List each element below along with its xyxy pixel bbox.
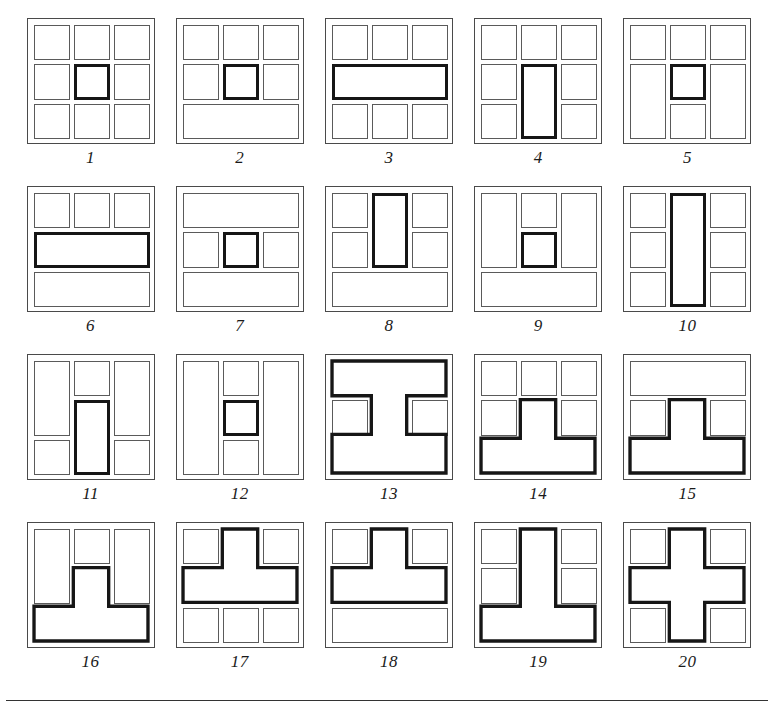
thin-region bbox=[481, 193, 517, 268]
figure-caption: 7 bbox=[235, 317, 244, 334]
thin-region bbox=[412, 193, 448, 228]
figure-inner-area bbox=[332, 529, 446, 641]
figure-17[interactable] bbox=[176, 522, 304, 648]
bold-region bbox=[223, 232, 259, 267]
bold-region-plus bbox=[630, 529, 744, 641]
horizontal-rule bbox=[6, 700, 768, 701]
figure-1[interactable] bbox=[27, 18, 155, 144]
figure-cell: 5 bbox=[615, 18, 760, 186]
thin-region bbox=[74, 25, 110, 60]
thin-region bbox=[114, 104, 150, 139]
figure-cell: 15 bbox=[615, 354, 760, 522]
thin-region bbox=[710, 25, 746, 60]
thin-region bbox=[74, 104, 110, 139]
figure-cell: 9 bbox=[466, 186, 611, 354]
thin-region bbox=[332, 25, 368, 60]
figure-12[interactable] bbox=[176, 354, 304, 480]
thin-region bbox=[223, 25, 259, 60]
thin-region bbox=[481, 25, 517, 60]
figure-caption: 8 bbox=[384, 317, 393, 334]
figure-13[interactable] bbox=[325, 354, 453, 480]
figure-19[interactable] bbox=[474, 522, 602, 648]
figure-16[interactable] bbox=[27, 522, 155, 648]
thin-region bbox=[332, 104, 368, 139]
bold-region-T_down bbox=[34, 529, 148, 641]
figure-cell: 1 bbox=[18, 18, 163, 186]
figure-inner-area bbox=[332, 193, 446, 305]
figure-9[interactable] bbox=[474, 186, 602, 312]
figure-cell: 3 bbox=[316, 18, 461, 186]
figure-caption: 15 bbox=[678, 485, 696, 502]
figure-4[interactable] bbox=[474, 18, 602, 144]
figure-caption: 3 bbox=[384, 149, 393, 166]
figure-cell: 11 bbox=[18, 354, 163, 522]
thin-region bbox=[114, 193, 150, 228]
thin-region bbox=[561, 25, 597, 60]
figure-caption: 20 bbox=[678, 653, 696, 670]
figure-cell: 19 bbox=[466, 522, 611, 690]
figure-caption: 6 bbox=[86, 317, 95, 334]
bold-region bbox=[74, 400, 110, 475]
thin-region bbox=[183, 272, 299, 307]
figure-cell: 8 bbox=[316, 186, 461, 354]
thin-region bbox=[481, 64, 517, 99]
thin-region bbox=[34, 104, 70, 139]
thin-region bbox=[74, 361, 110, 396]
figure-inner-area bbox=[481, 193, 595, 305]
thin-region bbox=[710, 193, 746, 228]
figure-6[interactable] bbox=[27, 186, 155, 312]
figure-10[interactable] bbox=[623, 186, 751, 312]
bold-region bbox=[670, 64, 706, 99]
thin-region bbox=[670, 104, 706, 139]
figure-18[interactable] bbox=[325, 522, 453, 648]
bold-region-T_up bbox=[332, 529, 446, 641]
figure-caption: 14 bbox=[529, 485, 547, 502]
thin-region bbox=[183, 193, 299, 228]
thin-region bbox=[561, 64, 597, 99]
thin-region bbox=[630, 64, 666, 139]
thin-region bbox=[710, 272, 746, 307]
bold-region bbox=[332, 64, 448, 99]
figure-grid: 1234567891011121314151617181920 bbox=[18, 18, 760, 690]
thin-region bbox=[561, 193, 597, 268]
figure-cell: 6 bbox=[18, 186, 163, 354]
figure-caption: 12 bbox=[231, 485, 249, 502]
bold-region-T_up bbox=[183, 529, 297, 641]
thin-region bbox=[114, 25, 150, 60]
figure-8[interactable] bbox=[325, 186, 453, 312]
figure-caption: 4 bbox=[534, 149, 543, 166]
thin-region bbox=[481, 272, 597, 307]
thin-region bbox=[183, 361, 219, 475]
thin-region bbox=[263, 64, 299, 99]
figure-14[interactable] bbox=[474, 354, 602, 480]
figure-cell: 13 bbox=[316, 354, 461, 522]
thin-region bbox=[372, 25, 408, 60]
figure-cell: 14 bbox=[466, 354, 611, 522]
thin-region bbox=[630, 193, 666, 228]
figure-2[interactable] bbox=[176, 18, 304, 144]
figure-inner-area bbox=[183, 361, 297, 473]
thin-region bbox=[630, 25, 666, 60]
bold-region bbox=[223, 64, 259, 99]
figure-7[interactable] bbox=[176, 186, 304, 312]
figure-inner-area bbox=[34, 25, 148, 137]
bold-region bbox=[74, 64, 110, 99]
figure-20[interactable] bbox=[623, 522, 751, 648]
thin-region bbox=[670, 25, 706, 60]
thin-region bbox=[630, 232, 666, 267]
figure-3[interactable] bbox=[325, 18, 453, 144]
figure-inner-area bbox=[630, 361, 744, 473]
thin-region bbox=[34, 25, 70, 60]
figure-inner-area bbox=[34, 529, 148, 641]
thin-region bbox=[114, 361, 150, 436]
bold-region-T_down bbox=[630, 361, 744, 473]
thin-region bbox=[183, 25, 219, 60]
figure-inner-area bbox=[34, 193, 148, 305]
bold-region-I bbox=[332, 361, 446, 473]
figure-11[interactable] bbox=[27, 354, 155, 480]
thin-region bbox=[332, 232, 368, 267]
figure-5[interactable] bbox=[623, 18, 751, 144]
figure-sheet: 1234567891011121314151617181920 bbox=[0, 0, 775, 720]
figure-15[interactable] bbox=[623, 354, 751, 480]
figure-cell: 16 bbox=[18, 522, 163, 690]
